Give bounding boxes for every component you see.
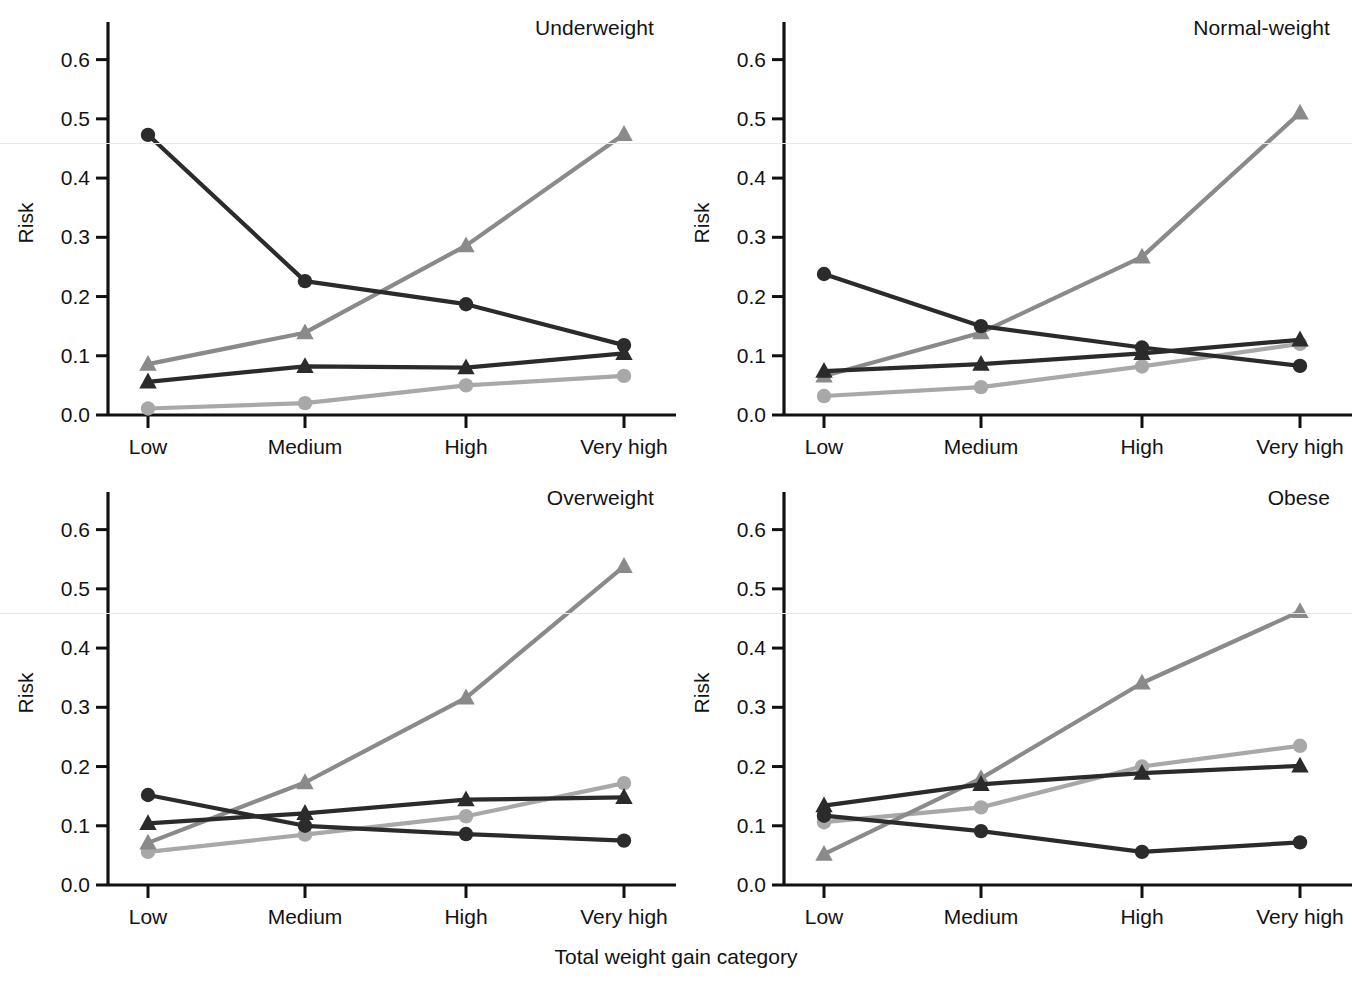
- series-gray-triangle: [139, 125, 632, 371]
- axes: [784, 22, 1352, 415]
- series-dark-circle: [141, 128, 631, 353]
- panel-overweight: OverweightRisk0.00.10.20.30.40.50.6LowMe…: [0, 470, 676, 935]
- plot-area: [676, 0, 1352, 465]
- plot-area: [0, 0, 676, 465]
- series-gray-circle: [817, 739, 1307, 830]
- plot-area: [0, 470, 676, 935]
- panel-normal-weight: Normal-weightRisk0.00.10.20.30.40.50.6Lo…: [676, 0, 1352, 465]
- series-dark-triangle: [815, 757, 1308, 813]
- panel-obese: ObeseRisk0.00.10.20.30.40.50.6LowMediumH…: [676, 470, 1352, 935]
- panel-underweight: UnderweightRisk0.00.10.20.30.40.50.6LowM…: [0, 0, 676, 465]
- series-gray-triangle: [815, 104, 1308, 383]
- plot-area: [676, 470, 1352, 935]
- figure-canvas: UnderweightRisk0.00.10.20.30.40.50.6LowM…: [0, 0, 1352, 993]
- x-axis-title: Total weight gain category: [0, 945, 1352, 969]
- axes: [784, 492, 1352, 885]
